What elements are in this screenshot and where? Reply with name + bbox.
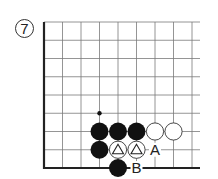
dot-mark-icon — [97, 111, 101, 115]
white-stone — [165, 123, 182, 140]
white-stone — [146, 123, 163, 140]
black-stone — [91, 123, 109, 141]
point-label-a: A — [150, 142, 160, 157]
go-board — [0, 0, 218, 179]
point-label-b: B — [132, 160, 142, 175]
black-stone — [91, 141, 109, 159]
black-stone — [109, 123, 127, 141]
black-stone — [109, 159, 127, 177]
black-stone — [128, 123, 146, 141]
